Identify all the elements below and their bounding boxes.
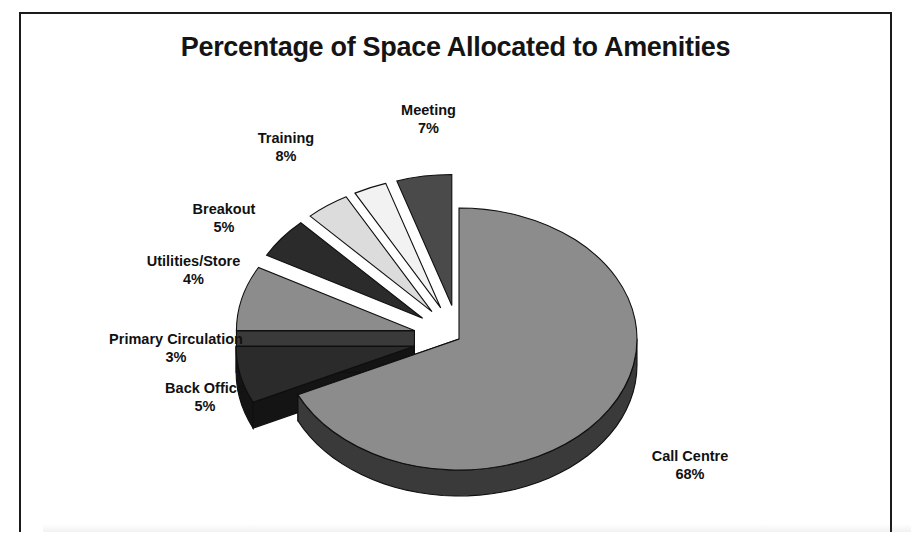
slice-label-primary-circulation-value: 3%: [81, 349, 271, 367]
slice-label-primary-circulation: Primary Circulation 3%: [81, 331, 271, 366]
pie-slices-group: [236, 175, 637, 496]
slice-label-utilities-store: Utilities/Store 4%: [121, 253, 266, 288]
slice-label-back-office-value: 5%: [135, 398, 275, 416]
slice-label-training-value: 8%: [221, 148, 351, 166]
slice-label-back-office-name: Back Office: [135, 380, 275, 398]
slice-label-training: Training 8%: [221, 130, 351, 165]
slice-label-meeting-name: Meeting: [366, 102, 491, 120]
slice-label-call-centre-name: Call Centre: [625, 448, 755, 466]
slice-label-call-centre-value: 68%: [625, 466, 755, 484]
slice-label-breakout-name: Breakout: [159, 201, 289, 219]
slice-label-back-office: Back Office 5%: [135, 380, 275, 415]
slice-label-meeting: Meeting 7%: [366, 102, 491, 137]
slice-label-utilities-store-name: Utilities/Store: [121, 253, 266, 271]
slice-label-meeting-value: 7%: [366, 120, 491, 138]
slice-label-training-name: Training: [221, 130, 351, 148]
slice-label-utilities-store-value: 4%: [121, 271, 266, 289]
slice-label-call-centre: Call Centre 68%: [625, 448, 755, 483]
chart-frame: Percentage of Space Allocated to Ameniti…: [19, 12, 892, 532]
slice-label-breakout-value: 5%: [159, 219, 289, 237]
slice-label-primary-circulation-name: Primary Circulation: [81, 331, 271, 349]
slice-label-breakout: Breakout 5%: [159, 201, 289, 236]
